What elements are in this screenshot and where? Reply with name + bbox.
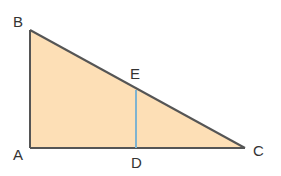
label-c: C	[253, 143, 264, 158]
label-e: E	[130, 66, 140, 81]
label-a: A	[13, 147, 23, 162]
label-b: B	[13, 14, 23, 29]
label-d: D	[131, 155, 142, 170]
triangle-diagram	[0, 0, 281, 176]
